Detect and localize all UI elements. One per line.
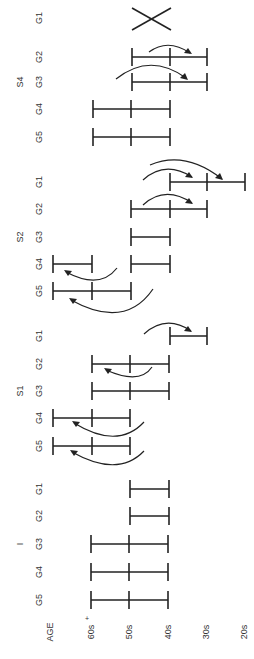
group-label: G1 (34, 483, 44, 495)
section-labels: S4 S2 S1 I (15, 76, 25, 545)
range-bar (130, 480, 169, 498)
group-label: G3 (34, 231, 44, 243)
range-bar (91, 591, 168, 609)
arrow-right-icon (143, 169, 193, 180)
group-label: G2 (34, 358, 44, 370)
group-label: G2 (34, 51, 44, 63)
age-tick-30s: 30s (201, 624, 211, 639)
group-label: G5 (34, 440, 44, 452)
range-bar (93, 128, 170, 146)
range-bar (131, 228, 170, 246)
range-bar (91, 563, 168, 581)
group-label: G5 (34, 285, 44, 297)
age-axis-title: AGE (45, 622, 55, 641)
age-axis: AGE 60s + 50s 40s 30s 20s (45, 615, 249, 642)
age-tick-60s: 60s (86, 624, 96, 639)
group-label: G1 (34, 12, 44, 24)
range-bar (53, 437, 130, 455)
section-label-s2: S2 (15, 231, 25, 242)
arrow-right-icon (144, 323, 192, 334)
age-tick-40s: 40s (163, 624, 173, 639)
group-label: G4 (34, 103, 44, 115)
age-tick-60s-plus: + (85, 615, 89, 622)
shift-arrows (64, 45, 223, 465)
arrow-left-icon (70, 450, 144, 465)
arrow-left-icon (64, 268, 117, 280)
arrow-right-icon (116, 65, 188, 80)
group-label: G4 (34, 258, 44, 270)
range-bar (130, 507, 169, 525)
range-bar (53, 409, 130, 427)
group-label: G5 (34, 131, 44, 143)
age-range-bars (53, 8, 245, 609)
arrow-left-icon (69, 289, 153, 313)
group-labels: G1 G2 G3 G4 G5 G1 G2 G3 G4 G5 G1 G2 G3 G… (34, 12, 44, 606)
arrow-left-icon (72, 421, 144, 436)
range-bar (53, 255, 170, 273)
group-label: G4 (34, 566, 44, 578)
range-bar (91, 535, 168, 553)
age-shift-diagram: S4 S2 S1 I G1 G2 G3 G4 G5 G1 G2 G3 G4 G5… (0, 0, 254, 659)
group-label: G3 (34, 76, 44, 88)
age-tick-20s: 20s (239, 624, 249, 639)
group-label: G4 (34, 412, 44, 424)
group-label: G2 (34, 510, 44, 522)
range-bar (92, 355, 169, 373)
section-label-s1: S1 (15, 385, 25, 396)
range-bar (132, 48, 207, 66)
arrow-right-icon (143, 194, 193, 205)
group-label: G3 (34, 385, 44, 397)
group-label: G5 (34, 594, 44, 606)
range-bar (93, 100, 170, 118)
section-label-i: I (15, 543, 25, 546)
group-label: G2 (34, 203, 44, 215)
range-bar (131, 200, 207, 218)
group-label: G1 (34, 330, 44, 342)
age-tick-50s: 50s (124, 624, 134, 639)
arrow-left-icon (104, 367, 152, 377)
range-bar (53, 282, 131, 300)
range-bar (170, 173, 245, 191)
group-label: G3 (34, 538, 44, 550)
section-label-s4: S4 (15, 76, 25, 87)
group-label: G1 (34, 176, 44, 188)
range-bar (92, 382, 169, 400)
cross-mark-icon (132, 8, 171, 30)
range-bar (132, 73, 207, 91)
